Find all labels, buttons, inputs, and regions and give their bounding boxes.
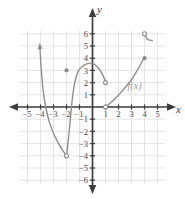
y-tick--2: −2 bbox=[79, 127, 88, 137]
open-endpoint-middle bbox=[104, 81, 108, 85]
y-tick--3: −3 bbox=[79, 139, 88, 149]
x-tick-1: 1 bbox=[103, 109, 107, 119]
x-tick--4: −4 bbox=[35, 109, 45, 119]
x-tick-4: 4 bbox=[142, 109, 147, 119]
isolated-solid-point bbox=[64, 68, 68, 72]
y-tick-2: 2 bbox=[84, 78, 88, 88]
open-point-top bbox=[143, 32, 147, 36]
function-label: f(x) bbox=[128, 80, 143, 92]
y-tick--4: −4 bbox=[79, 151, 89, 161]
y-tick-6: 6 bbox=[84, 29, 88, 39]
x-tick--2: −2 bbox=[61, 109, 70, 119]
open-endpoint-left bbox=[65, 154, 69, 158]
y-tick-5: 5 bbox=[84, 41, 88, 51]
coordinate-plane-graph: −5−4−3−2−112345654321−1−2−3−4−5−6 x y f(… bbox=[0, 0, 185, 199]
y-axis-label: y bbox=[96, 3, 102, 15]
y-tick--5: −5 bbox=[79, 163, 88, 173]
solid-endpoint-right bbox=[142, 56, 146, 60]
y-tick--1: −1 bbox=[79, 114, 88, 124]
x-tick-5: 5 bbox=[155, 109, 159, 119]
open-endpoint-right bbox=[104, 105, 108, 109]
x-tick-2: 2 bbox=[116, 109, 120, 119]
graph-figure: −5−4−3−2−112345654321−1−2−3−4−5−6 x y f(… bbox=[0, 0, 185, 199]
axes bbox=[9, 8, 176, 194]
x-tick--5: −5 bbox=[22, 109, 31, 119]
y-tick--6: −6 bbox=[79, 175, 88, 185]
x-axis-label: x bbox=[175, 103, 181, 115]
x-tick--3: −3 bbox=[48, 109, 57, 119]
y-tick-1: 1 bbox=[84, 90, 88, 100]
x-tick-3: 3 bbox=[129, 109, 133, 119]
y-tick-3: 3 bbox=[84, 66, 88, 76]
